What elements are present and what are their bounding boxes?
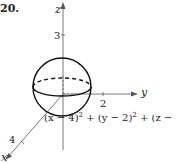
y-tick-label: 2 — [100, 99, 106, 109]
x-tick — [21, 141, 24, 144]
problem-number: 20. — [0, 3, 19, 14]
sphere-equation: (x − 4)2 + (y − 2)2 + (z − 3)2 = 1 — [44, 113, 176, 123]
sphere-diagram: 20. z 3 y 2 4 x (x − 4)2 + (y − 2)2 + (z… — [0, 0, 176, 163]
eq-term-z: + (z − 3) — [137, 112, 176, 123]
y-axis-label: y — [141, 87, 147, 98]
z-axis-label: z — [55, 4, 61, 15]
x-axis-label: x — [1, 152, 7, 163]
eq-term-y: + (y − 2) — [83, 112, 132, 123]
eq-term-x: (x − 4) — [44, 112, 79, 123]
y-axis-arrow-icon — [131, 92, 138, 97]
z-tick-label: 3 — [54, 31, 60, 41]
sphere-outline — [33, 58, 91, 116]
diagram-svg — [0, 0, 176, 163]
x-tick-label: 4 — [9, 135, 15, 145]
z-axis-arrow-icon — [61, 2, 66, 9]
